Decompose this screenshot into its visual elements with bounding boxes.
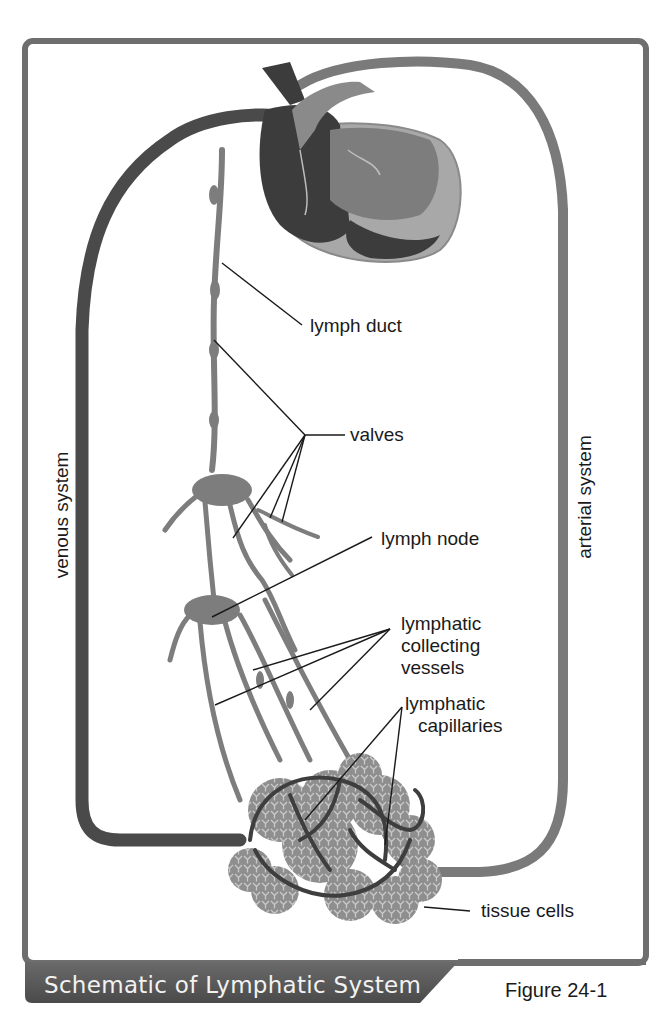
- caption-title: Schematic of Lymphatic System: [44, 972, 421, 998]
- label-lymph-node: lymph node: [381, 528, 479, 549]
- label-collecting-vessels-line2: collecting: [401, 635, 480, 656]
- label-capillaries-line2: capillaries: [418, 715, 502, 736]
- label-lymph-duct: lymph duct: [310, 315, 403, 336]
- label-arterial-system: arterial system: [574, 435, 595, 559]
- label-valves: valves: [350, 424, 404, 445]
- lymphatic-system-figure: lymph duct valves lymph node lymphatic c…: [0, 0, 666, 1020]
- label-venous-system: venous system: [51, 452, 72, 579]
- label-collecting-vessels-line3: vessels: [401, 657, 464, 678]
- label-collecting-vessels-line1: lymphatic: [401, 613, 481, 634]
- figure-number: Figure 24-1: [505, 979, 607, 1001]
- label-capillaries-line1: lymphatic: [405, 693, 485, 714]
- label-tissue-cells: tissue cells: [481, 900, 574, 921]
